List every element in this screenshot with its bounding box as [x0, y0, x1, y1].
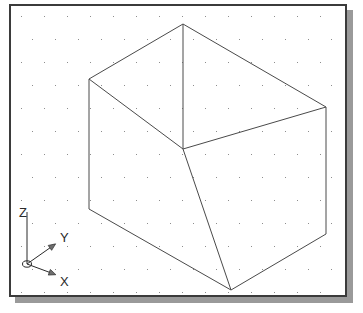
axis-label-x: X	[60, 275, 69, 288]
axis-label-z: Z	[19, 206, 27, 219]
axis-label-y: Y	[60, 231, 69, 244]
application-root: Z Y X	[0, 0, 363, 313]
isometric-box-geometry[interactable]	[11, 6, 345, 295]
ucs-axis-indicator[interactable]	[23, 212, 56, 275]
box-edge-top_left-to-top_front[interactable]	[89, 79, 183, 149]
box-edge-top_front-to-bottom_front[interactable]	[183, 149, 231, 290]
ucs-arrowhead-x	[48, 269, 56, 275]
box-edge-top_back-to-top_right[interactable]	[183, 24, 326, 107]
box-edge-group	[89, 24, 326, 290]
ucs-arrowhead-y	[48, 244, 55, 250]
box-edge-bottom_front-to-bottom_right[interactable]	[231, 234, 326, 290]
box-edge-bottom_left-to-bottom_front[interactable]	[89, 209, 231, 290]
box-edge-top_right-to-top_front[interactable]	[183, 107, 326, 149]
drawing-viewport[interactable]: Z Y X	[9, 4, 347, 297]
box-edge-top_back-to-top_left[interactable]	[89, 24, 183, 79]
